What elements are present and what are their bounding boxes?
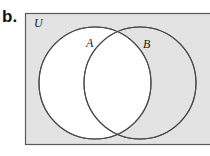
venn-diagram-graphic: U A B: [0, 0, 210, 156]
set-a-label: A: [85, 36, 94, 50]
set-a-circle: [39, 27, 151, 139]
universal-set-label: U: [34, 16, 44, 30]
set-b-label: B: [143, 37, 151, 51]
figure-panel: b. U A B: [0, 0, 210, 156]
